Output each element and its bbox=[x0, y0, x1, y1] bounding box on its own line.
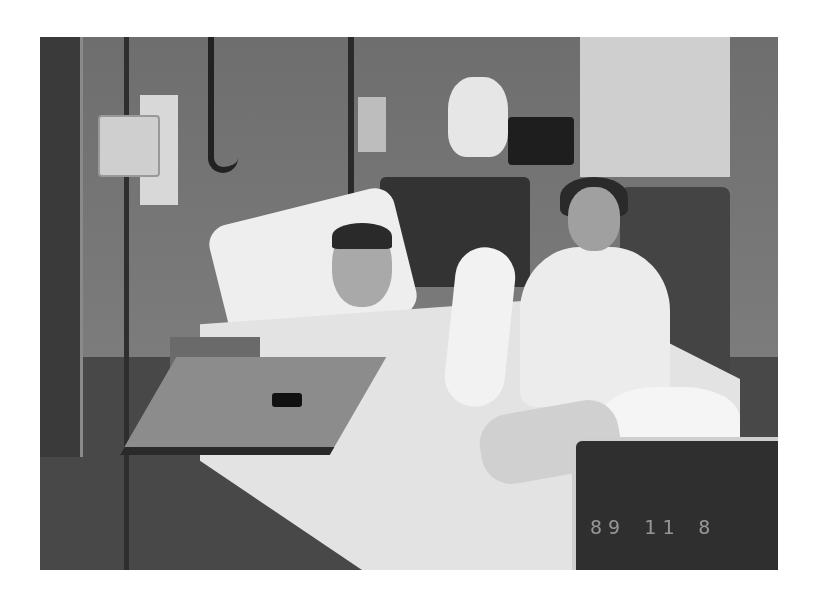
tray-device bbox=[272, 393, 302, 407]
visitor-woman bbox=[520, 247, 670, 407]
hanging-cable bbox=[208, 37, 238, 173]
left-shelf bbox=[40, 37, 83, 457]
hospital-photo: 89 11 8 bbox=[40, 37, 778, 570]
teddy-bear bbox=[448, 77, 508, 157]
bed-footboard bbox=[572, 437, 778, 570]
door-frame bbox=[348, 37, 354, 207]
patient-hair bbox=[332, 223, 392, 249]
date-stamp: 89 11 8 bbox=[590, 515, 716, 539]
monitor-arm bbox=[358, 97, 386, 152]
iv-pump bbox=[98, 115, 160, 177]
wall-posters bbox=[580, 37, 730, 177]
camera bbox=[508, 117, 574, 165]
visitor-head bbox=[568, 187, 620, 251]
